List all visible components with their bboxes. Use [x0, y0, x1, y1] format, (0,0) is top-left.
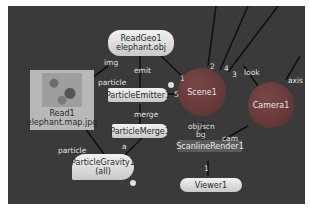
edge-label-particle-top: particle	[98, 78, 126, 87]
camera-label: Camera1	[253, 101, 289, 110]
read-file: elephant.map.jpg	[27, 118, 98, 127]
node-readgeo[interactable]: ReadGeo1 elephant.obj	[108, 30, 174, 56]
node-camera[interactable]: Camera1	[248, 82, 294, 128]
edge-label-look: look	[244, 68, 260, 77]
edge-label-2: 2	[210, 62, 215, 71]
edge-label-img: img	[104, 58, 118, 67]
node-scene[interactable]: Scene1	[178, 68, 226, 116]
node-particle-gravity[interactable]: ParticleGravity1 (all)	[72, 154, 134, 180]
readgeo-name: ReadGeo1	[120, 34, 161, 43]
node-particle-emitter[interactable]: ParticleEmitter1	[108, 88, 168, 102]
gravity-mode: (all)	[95, 167, 111, 176]
texture-thumbnail	[42, 73, 82, 107]
merge-label: ParticleMerge1	[110, 127, 170, 136]
emitter-output-dot[interactable]	[168, 82, 174, 88]
edge-label-emit: emit	[134, 66, 151, 75]
viewer-label: Viewer1	[195, 181, 227, 190]
gravity-output-dot[interactable]	[130, 180, 136, 186]
edge-label-particle-bottom: particle	[58, 146, 86, 155]
emitter-label: ParticleEmitter1	[106, 91, 170, 100]
edge-label-3: 3	[232, 70, 237, 79]
edge-label-cam: cam	[222, 134, 238, 143]
readgeo-file: elephant.obj	[116, 43, 166, 52]
edge-label-4: 4	[224, 64, 229, 73]
edge-label-1: 1	[180, 74, 185, 83]
node-particle-merge[interactable]: ParticleMerge1	[112, 124, 168, 138]
edge-label-axis: axis	[288, 76, 303, 85]
read-name: Read1	[49, 109, 74, 118]
gravity-name: ParticleGravity1	[71, 158, 135, 167]
edge-label-a: a	[122, 142, 127, 151]
node-read[interactable]: Read1 elephant.map.jpg	[30, 70, 94, 130]
node-graph-canvas[interactable]: ReadGeo1 elephant.obj Read1 elephant.map…	[8, 6, 305, 204]
edge-label-5: 5	[174, 90, 179, 99]
edge-label-viewer-in: 1	[204, 164, 209, 173]
node-viewer[interactable]: Viewer1	[180, 178, 242, 192]
edge-label-bg: bg	[196, 130, 206, 139]
scene-label: Scene1	[187, 88, 216, 97]
edge-label-merge: merge	[134, 110, 158, 119]
